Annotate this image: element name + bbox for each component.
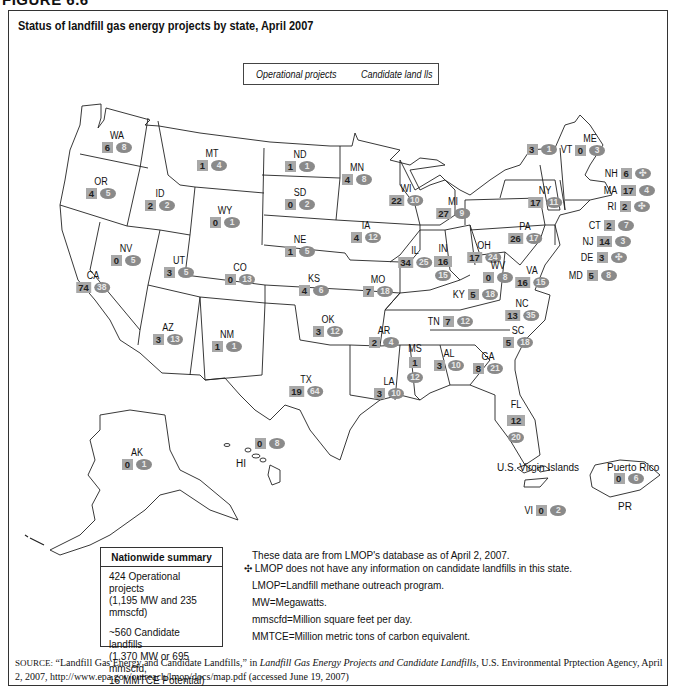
candidate-count: 8 [601, 270, 617, 281]
state-abbr: WI [391, 183, 421, 195]
state-LA: LA 310 [374, 376, 404, 400]
candidate-count: 11 [546, 197, 562, 208]
state-abbr: MT [199, 148, 226, 160]
operational-count: 14 [597, 236, 612, 247]
candidate-count: 13 [167, 334, 183, 345]
source-quote: “Landfill Gas Energy and Candidate Landf… [53, 657, 260, 668]
operational-count: 6 [621, 168, 632, 179]
operational-count: 3 [597, 252, 608, 263]
state-NV: NV 05 [111, 243, 141, 267]
state-AZ: AZ 313 [153, 322, 183, 346]
operational-count: 12 [507, 415, 525, 426]
operational-count: 5 [468, 289, 479, 300]
operational-count: 2 [620, 201, 631, 212]
state-SC: SC 518 [503, 325, 533, 349]
state-MS: MS 1 12 [403, 343, 427, 383]
state-abbr: AL [436, 348, 463, 360]
state-abbr: AR [371, 325, 398, 337]
candidate-count: 10 [388, 388, 404, 399]
state-SD: SD 02 [285, 187, 315, 211]
operational-count: 0 [111, 255, 122, 266]
state-abbr: UT [166, 255, 193, 267]
state-RI: RI 2 ✣ [607, 201, 650, 212]
candidate-count: 3 [615, 236, 631, 247]
operational-count: 3 [374, 388, 385, 399]
puerto-rico-label: Puerto Rico [607, 462, 659, 473]
state-CT: CT 2 7 [588, 220, 634, 231]
state-MT: MT 14 [197, 148, 227, 172]
state-abbr: ID [147, 188, 174, 200]
state-NM: NM 11 [212, 329, 242, 353]
state-abbr: WV [485, 260, 512, 272]
state-abbr: MS [404, 343, 426, 355]
note-lmop: LMOP=Landfill methane outreach program. [252, 579, 572, 592]
operational-count: 0 [225, 274, 236, 285]
no-info-icon: ✣ [635, 168, 651, 179]
state-abbr: KY [453, 289, 465, 300]
candidate-count: 1 [224, 217, 240, 228]
state-HI-label: HI [236, 458, 246, 469]
source-publication: Landfill Gas Energy Projects and Candida… [260, 657, 476, 668]
state-PR-label: PR [618, 501, 632, 512]
operational-count: 0 [614, 473, 625, 484]
candidate-count: 1 [541, 144, 557, 155]
operational-count: 3 [313, 326, 324, 337]
state-KS: KS 46 [299, 273, 329, 297]
note-mmtce: MMTCE=Million metric tons of carbon equi… [252, 630, 572, 643]
candidate-count: 10 [448, 360, 464, 371]
nationwide-summary: Nationwide summary 424 Operational proje… [100, 547, 223, 647]
state-abbr: CO [227, 262, 254, 274]
state-abbr: NE [287, 234, 314, 246]
operational-count: 16 [434, 256, 452, 267]
state-DE: DE 3 ✣ [580, 252, 627, 263]
state-TN: TN 7 12 [427, 316, 473, 327]
operational-count: 5 [587, 270, 598, 281]
state-abbr: CT [589, 220, 601, 231]
operational-count: 4 [351, 232, 362, 243]
operational-count: 8 [473, 363, 484, 374]
candidate-count: 12 [327, 326, 343, 337]
state-AL: AL 310 [434, 348, 464, 372]
state-PR-values: 0 6 [614, 473, 644, 484]
state-IL: IL 3425 [398, 245, 432, 269]
candidate-count: 8 [356, 174, 372, 185]
no-info-icon: ✣ [611, 252, 627, 263]
state-abbr: FL [505, 399, 527, 411]
operational-count: 27 [436, 208, 451, 219]
operational-count: 34 [398, 257, 413, 268]
operational-count: 3 [434, 360, 445, 371]
candidate-count: 17 [526, 233, 542, 244]
state-ND: ND 11 [285, 149, 315, 173]
candidate-count: 38 [94, 282, 110, 293]
candidate-count: 5 [178, 267, 194, 278]
note-no-info: ✣ LMOP does not have any information on … [244, 562, 572, 575]
state-abbr: AZ [155, 322, 182, 334]
candidate-count: 5 [100, 188, 116, 199]
state-MI: MI 279 [436, 196, 470, 220]
candidate-count: 3 [589, 145, 605, 156]
operational-count: 2 [145, 200, 156, 211]
operational-count: 16 [515, 277, 530, 288]
state-abbr: WA [104, 130, 131, 142]
state-NJ: NJ 14 3 [582, 236, 631, 247]
operational-count: 13 [505, 310, 520, 321]
state-abbr: OK [315, 314, 342, 326]
operational-count: 1 [285, 246, 296, 257]
operational-count: 0 [122, 459, 133, 470]
state-abbr: NY [530, 185, 560, 197]
operational-count: 7 [363, 286, 374, 297]
operational-count: 6 [102, 142, 113, 153]
operational-count: 1 [197, 160, 208, 171]
state-abbr: NJ [583, 236, 594, 247]
state-ME: ME 03 [575, 133, 605, 157]
state-abbr: WY [212, 205, 239, 217]
state-abbr: VT [561, 144, 573, 155]
operational-count: 0 [536, 505, 547, 516]
candidate-count: 64 [307, 386, 323, 397]
state-UT: UT 35 [164, 255, 194, 279]
operational-count: 17 [467, 252, 482, 263]
candidate-count: 5 [299, 246, 315, 257]
candidate-count: 12 [457, 316, 473, 327]
candidate-count: 15 [435, 270, 451, 281]
operational-count: 4 [342, 174, 353, 185]
